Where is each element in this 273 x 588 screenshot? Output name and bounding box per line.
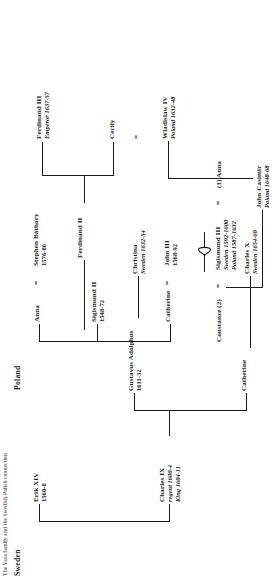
person-dates: 1560-8 bbox=[40, 473, 48, 502]
connector-charles-ix-down bbox=[169, 410, 170, 436]
person-dates: 1576-86 bbox=[40, 213, 48, 266]
connector-to-erik-xiv bbox=[39, 504, 40, 522]
person-dates: 1548-72 bbox=[98, 282, 106, 322]
connector-to-john-iii bbox=[170, 324, 171, 342]
person-name: Anna bbox=[33, 305, 41, 322]
person-name: Catherine bbox=[240, 360, 248, 391]
person-sigismund-ii: Sigismund II 1548-72 bbox=[90, 282, 106, 322]
marriage-symbol-wladislaw-cecily: = bbox=[132, 135, 141, 139]
person-dates: Poland 1632-48 bbox=[169, 96, 177, 139]
connector-to-catherine-sv bbox=[246, 393, 247, 411]
person-name: Catherine bbox=[164, 291, 172, 322]
person-christina: Christina Sweden 1632-54 bbox=[131, 230, 147, 274]
section-header-poland: Poland bbox=[13, 365, 22, 390]
person-name: Charles X bbox=[243, 230, 251, 274]
person-erik-xiv: Erik XIV 1560-8 bbox=[32, 473, 48, 502]
person-gustavus-adolphus: Gustavus Adolphus 1611-32 bbox=[127, 330, 143, 391]
marriage-symbol-constanze-sigismund: = bbox=[214, 284, 223, 288]
person-ferdinand-iii: Ferdinand III Emperor 1637-57 bbox=[35, 92, 51, 139]
person-name: Constanze (2) bbox=[215, 299, 223, 342]
connector-to-john-casimir bbox=[262, 210, 263, 288]
connector-anna-up bbox=[168, 178, 226, 179]
person-charles-x: Charles X Sweden 1654-60 bbox=[243, 230, 259, 274]
connector-anna-down bbox=[226, 178, 253, 179]
person-name: Christina bbox=[131, 230, 139, 274]
person-anna-bathory: Anna bbox=[33, 305, 41, 322]
person-name: Charles IX bbox=[158, 465, 166, 502]
connector-ferdinand-children-bar bbox=[42, 175, 114, 176]
connector-ferdinand-ii-left bbox=[84, 260, 85, 330]
person-name: Erik XIV bbox=[32, 473, 40, 502]
connector-poland-sibling-bar bbox=[39, 341, 171, 342]
person-dates: Emperor 1637-57 bbox=[43, 92, 51, 139]
connector-to-gustavus bbox=[134, 393, 135, 411]
person-name: Sigismund III bbox=[214, 220, 222, 270]
person-name: Sigismund II bbox=[90, 282, 98, 322]
marriage-symbol-sigismund-anna: = bbox=[214, 201, 223, 205]
connector-constanze-down bbox=[226, 287, 263, 288]
connector-ferdinand-ii-right bbox=[84, 175, 85, 203]
person-dates: 1611-32 bbox=[135, 330, 143, 391]
connector-sweden-sibling-bar bbox=[39, 521, 170, 522]
person-cecily: Cecily bbox=[108, 119, 116, 139]
person-dates-sweden: Sweden 1592-1600 bbox=[222, 220, 230, 270]
person-charles-ix: Charles IX regent 1600-4 King 1604-11 bbox=[158, 465, 181, 502]
connector-gustavus-to-christina bbox=[138, 276, 139, 318]
person-name: Ferdinand III bbox=[35, 92, 43, 139]
connector-to-cecily bbox=[113, 142, 114, 176]
person-name: Cecily bbox=[108, 119, 116, 139]
person-constanze: Constanze (2) bbox=[215, 299, 223, 342]
person-name: Wladislaw IV bbox=[161, 96, 169, 139]
connector-to-charles-ix bbox=[169, 504, 170, 522]
connector-john-iii-down-a bbox=[204, 254, 205, 272]
person-name: Stephen Báthory bbox=[32, 213, 40, 266]
person-dates: Sweden 1632-54 bbox=[139, 230, 147, 274]
marriage-symbol-anna-stephen: = bbox=[32, 281, 41, 285]
person-dates: Sweden 1654-60 bbox=[251, 230, 259, 274]
person-wladislaw-iv: Wladislaw IV Poland 1632-48 bbox=[161, 96, 177, 139]
person-anna-first-wife: (1) Anna bbox=[215, 161, 223, 188]
person-catherine-poland: Catherine bbox=[164, 291, 172, 322]
connector-to-sigismund-ii bbox=[97, 324, 98, 342]
person-name: Gustavus Adolphus bbox=[127, 330, 135, 391]
connector-john-iii-down-b bbox=[204, 232, 205, 248]
connector-to-ferdinand-iii bbox=[42, 142, 43, 176]
person-name: John Casimir bbox=[255, 166, 263, 208]
connector-charles-ix-children-bar bbox=[134, 410, 247, 411]
person-name: (1) Anna bbox=[215, 161, 223, 188]
person-dates: Poland 1648-68 bbox=[263, 166, 271, 208]
person-name: Ferdinand II bbox=[76, 218, 84, 258]
person-dates-poland: Poland 1587-1632 bbox=[230, 220, 238, 270]
figure-caption: The Vasa family and the Swedish-Polish c… bbox=[2, 453, 8, 576]
section-header-sweden: Sweden bbox=[13, 549, 22, 576]
person-dates-king: King 1604-11 bbox=[174, 465, 182, 502]
person-catherine-sweden: Catherine bbox=[240, 360, 248, 391]
marriage-symbol-catherine-john: = bbox=[163, 281, 172, 285]
person-john-casimir: John Casimir Poland 1648-68 bbox=[255, 166, 271, 208]
person-name: John III bbox=[163, 240, 171, 266]
person-stephen-bathory: Stephen Báthory 1576-86 bbox=[32, 213, 48, 266]
person-dates-regent: regent 1600-4 bbox=[166, 465, 174, 502]
person-sigismund-iii: Sigismund III Sweden 1592-1600 Poland 15… bbox=[214, 220, 237, 270]
person-ferdinand-ii: Ferdinand II bbox=[76, 218, 84, 258]
person-john-iii: John III 1568-92 bbox=[163, 240, 179, 266]
connector-to-anna-bathory bbox=[39, 324, 40, 342]
connector-to-wladislaw-iv bbox=[168, 141, 169, 179]
genealogy-chart: Sweden Poland The Vasa family and the Sw… bbox=[0, 0, 273, 588]
person-dates: 1568-92 bbox=[171, 240, 179, 266]
